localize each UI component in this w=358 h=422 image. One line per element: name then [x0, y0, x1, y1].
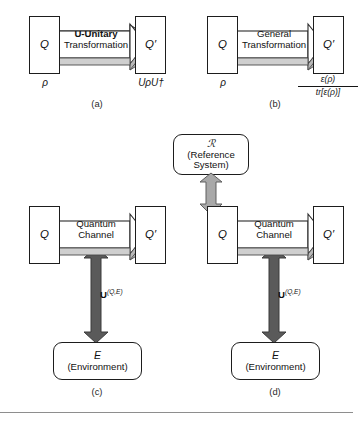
panel-b-fraction-denominator: tr[ε(ρ)]	[298, 88, 358, 98]
panel-b-caption: (b)	[255, 98, 295, 109]
panel-c-right-system-label: Q′	[145, 229, 156, 241]
panel-c-left-system-label: Q	[40, 229, 49, 241]
reference-system-box: ℛ (Reference System)	[173, 134, 249, 175]
panel-b-fraction-numerator: ε(ρ)	[298, 75, 358, 85]
panel-a-left-system-label: Q	[40, 39, 49, 51]
panel-c-environment-name: (Environment)	[67, 362, 127, 373]
panel-d-unitary-superscript: (Q,E)	[285, 288, 301, 295]
panel-a-right-state-label: UρU†	[123, 77, 179, 88]
panel-b-left-system-box: Q	[207, 16, 238, 74]
panel-b-left-state-label: ρ	[209, 77, 237, 88]
panel-b-right-state-fraction: ε(ρ) tr[ε(ρ)]	[298, 75, 358, 98]
panel-d-caption: (d)	[255, 386, 295, 397]
panel-a-caption: (a)	[77, 98, 117, 109]
panel-d-environment-box: E (Environment)	[231, 342, 320, 380]
panel-d-environment-symbol: E	[272, 350, 279, 362]
reference-system-symbol: ℛ	[207, 138, 215, 150]
panel-a-left-state-label: ρ	[31, 77, 59, 88]
panel-c-unitary-superscript: (Q,E)	[107, 288, 123, 295]
panel-c-left-system-box: Q	[29, 206, 60, 264]
panel-d-right-system-box: Q′	[313, 206, 344, 264]
panel-d-left-system-label: Q	[218, 229, 227, 241]
panel-d-environment-name: (Environment)	[245, 362, 305, 373]
panel-c-caption: (c)	[77, 386, 117, 397]
panel-c-environment-box: E (Environment)	[53, 342, 142, 380]
figure-bottom-rule	[0, 412, 353, 413]
panel-c-environment-symbol: E	[94, 350, 101, 362]
panel-c-unitary-symbol: U	[100, 289, 107, 300]
panel-b-right-system-box: Q′	[313, 16, 344, 74]
panel-d-left-system-box: Q	[207, 206, 238, 264]
panel-b-left-system-label: Q	[218, 39, 227, 51]
panel-a-left-system-box: Q	[29, 16, 60, 74]
panel-a-right-system-box: Q′	[135, 16, 166, 74]
panel-d-unitary-label: U(Q,E)	[278, 288, 301, 300]
panel-d-unitary-symbol: U	[278, 289, 285, 300]
panel-c-right-system-box: Q′	[135, 206, 166, 264]
panel-b-right-system-label: Q′	[323, 39, 334, 51]
panel-c-unitary-label: U(Q,E)	[100, 288, 123, 300]
panel-d-right-system-label: Q′	[323, 229, 334, 241]
reference-system-name-line2: System)	[193, 160, 228, 171]
panel-a-right-system-label: Q′	[145, 39, 156, 51]
